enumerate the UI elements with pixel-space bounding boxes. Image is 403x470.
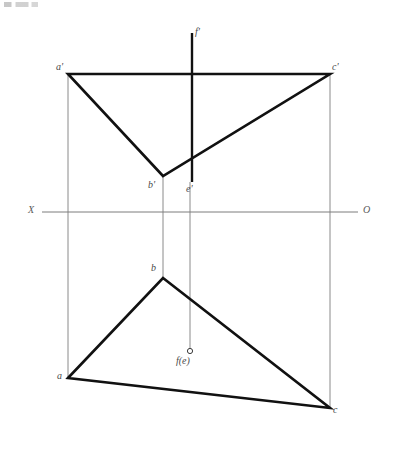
point-fe-marker [187, 348, 192, 353]
projection-lines-group [68, 74, 330, 408]
label-c-prime: c' [332, 62, 339, 72]
label-a: a [57, 371, 62, 381]
label-b: b [151, 263, 156, 273]
label-e-prime: e' [186, 184, 193, 194]
label-axis-x: X [28, 205, 34, 215]
front-view-triangle [68, 74, 330, 176]
drawing-canvas: a' c' b' e' f' X O a b c f(e) [0, 0, 403, 470]
label-a-prime: a' [56, 62, 63, 72]
top-view-triangle [68, 278, 330, 408]
label-axis-o: O [363, 205, 370, 215]
label-c: c [333, 405, 337, 415]
label-b-prime: b' [148, 180, 155, 190]
label-fe: f(e) [176, 356, 190, 366]
label-f-prime: f' [195, 27, 200, 37]
